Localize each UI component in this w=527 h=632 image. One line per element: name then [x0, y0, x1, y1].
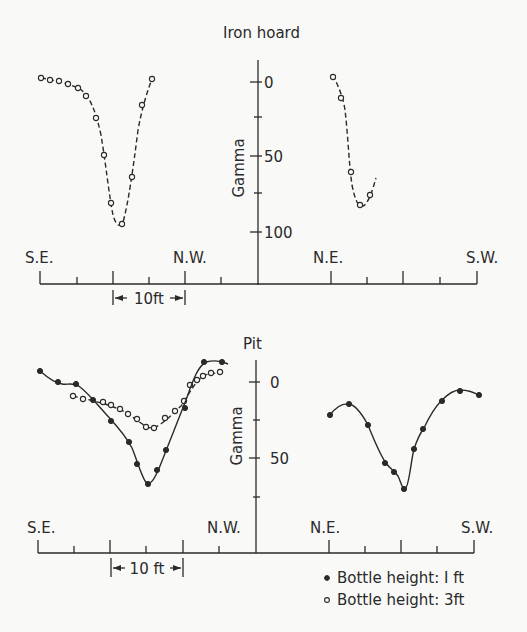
- legend-open-circle-icon: [325, 598, 330, 603]
- bottom-scale-bar-label: 10 ft: [130, 560, 165, 578]
- top-label-ne: N.E.: [313, 249, 343, 267]
- legend-item-1ft: Bottle height: I ft: [337, 569, 464, 587]
- top-ytick-label-0: 0: [264, 74, 274, 92]
- bottom-label-ne: N.E.: [310, 519, 340, 537]
- top-se-nw-points: [38, 75, 154, 226]
- top-scale-bar: 10ft: [113, 290, 185, 308]
- legend-filled-circle-icon: [325, 576, 330, 581]
- bottom-label-se: S.E.: [27, 519, 56, 537]
- top-scale-bar-label: 10ft: [134, 290, 164, 308]
- legend-item-3ft: Bottle height: 3ft: [337, 591, 465, 609]
- bottom-ylabel: Gamma: [228, 406, 246, 465]
- pit-panel: Pit 0 50 Gamma S.E. N.W. N.E. S.W.: [27, 335, 493, 609]
- iron-hoard-title: Iron hoard: [223, 24, 300, 42]
- top-ne-sw-points: [330, 74, 372, 207]
- magnetometer-figure: Iron hoard 0 50 100 Gamma S.E. N.W. N.: [0, 0, 527, 632]
- top-label-se: S.E.: [25, 249, 54, 267]
- pit-title: Pit: [243, 335, 262, 353]
- bottom-label-sw: S.W.: [461, 519, 493, 537]
- top-ytick-label-100: 100: [264, 224, 293, 242]
- top-label-nw: N.W.: [173, 249, 207, 267]
- bottom-label-nw: N.W.: [207, 519, 241, 537]
- top-se-nw-curve: [41, 76, 153, 225]
- bottom-ytick-label-50: 50: [270, 450, 289, 468]
- top-ylabel: Gamma: [230, 138, 248, 197]
- bottom-scale-bar: 10 ft: [111, 558, 183, 578]
- legend: Bottle height: I ft Bottle height: 3ft: [325, 569, 465, 609]
- iron-hoard-panel: Iron hoard 0 50 100 Gamma S.E. N.W. N.: [25, 24, 498, 308]
- top-label-sw: S.W.: [466, 249, 498, 267]
- top-ne-sw-curve: [333, 75, 376, 206]
- pit-ne-sw-curve: [330, 390, 480, 489]
- top-ytick-label-50: 50: [264, 148, 283, 166]
- bottom-ytick-label-0: 0: [270, 374, 280, 392]
- pit-ne-sw-points: [327, 388, 481, 491]
